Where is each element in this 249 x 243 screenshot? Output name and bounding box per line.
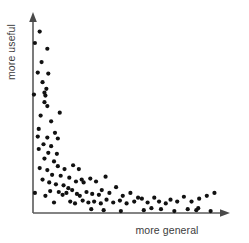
data-point	[41, 142, 45, 146]
data-point	[70, 188, 74, 192]
data-point	[86, 200, 90, 204]
data-point	[45, 168, 49, 172]
data-point	[104, 198, 108, 202]
data-point	[118, 198, 122, 202]
data-point	[97, 193, 101, 197]
data-point	[157, 199, 161, 203]
data-point	[100, 188, 104, 192]
data-point	[114, 185, 118, 189]
data-point	[67, 176, 71, 180]
data-point	[205, 194, 209, 198]
data-point	[46, 71, 50, 75]
data-point	[92, 199, 96, 203]
data-point	[50, 173, 54, 177]
data-point	[57, 190, 61, 194]
data-point	[142, 208, 146, 212]
data-point	[152, 196, 156, 200]
data-point	[89, 207, 93, 211]
data-point	[159, 207, 163, 211]
data-point	[36, 71, 40, 75]
data-point	[36, 135, 40, 139]
data-point	[212, 191, 216, 195]
data-point	[73, 201, 77, 205]
data-point	[172, 209, 176, 213]
data-point	[78, 194, 82, 198]
data-point	[88, 177, 92, 181]
data-point	[61, 183, 65, 187]
data-point	[90, 192, 94, 196]
data-point	[52, 200, 56, 204]
data-point	[99, 201, 103, 205]
data-point	[64, 191, 68, 195]
data-point	[32, 92, 36, 96]
scatter-plot-figure: more general more useful	[0, 0, 249, 243]
data-point	[168, 198, 172, 202]
data-point	[71, 163, 75, 167]
data-point	[37, 127, 41, 131]
data-point	[149, 206, 153, 210]
data-point	[52, 159, 56, 163]
data-point	[94, 179, 98, 183]
data-point	[132, 199, 136, 203]
data-point	[43, 194, 47, 198]
data-point	[37, 147, 41, 151]
x-axis-arrowhead	[220, 209, 230, 217]
data-point	[53, 131, 57, 135]
data-point	[54, 182, 58, 186]
x-axis-label: more general	[135, 224, 198, 236]
data-point	[197, 197, 201, 201]
data-point	[82, 180, 86, 184]
data-point	[119, 209, 123, 213]
data-point	[46, 151, 50, 155]
data-point	[175, 199, 179, 203]
data-point	[44, 87, 48, 91]
data-point	[39, 60, 43, 64]
data-point	[49, 119, 53, 123]
data-point	[128, 191, 132, 195]
scatter-plot-canvas: more general more useful	[0, 0, 249, 243]
data-point	[43, 93, 47, 97]
data-point	[49, 144, 53, 148]
data-point	[136, 196, 140, 200]
data-point	[58, 111, 62, 115]
data-point	[45, 47, 49, 51]
data-point	[146, 200, 150, 204]
data-point	[182, 195, 186, 199]
data-point	[48, 189, 52, 193]
data-point	[121, 194, 125, 198]
data-point	[103, 175, 107, 179]
data-point	[124, 201, 128, 205]
data-point	[77, 167, 81, 171]
data-point	[140, 197, 144, 201]
data-point	[61, 193, 65, 197]
data-point	[74, 179, 78, 183]
data-point	[38, 166, 42, 170]
data-point	[55, 152, 59, 156]
data-points-layer	[32, 29, 217, 213]
data-point	[164, 201, 168, 205]
data-point	[84, 190, 88, 194]
data-point	[81, 198, 85, 202]
data-point	[111, 200, 115, 204]
data-point	[40, 80, 44, 84]
y-axis-label: more useful	[5, 24, 17, 80]
data-point	[56, 164, 60, 168]
data-point	[196, 206, 200, 210]
data-point	[47, 180, 51, 184]
x-axis-group	[33, 209, 230, 217]
data-point	[62, 167, 66, 171]
y-axis-arrowhead	[29, 12, 37, 22]
data-point	[40, 177, 44, 181]
data-point	[42, 156, 46, 160]
data-point	[38, 29, 42, 33]
data-point	[42, 100, 46, 104]
data-point	[66, 186, 70, 190]
data-point	[102, 208, 106, 212]
data-point	[39, 113, 43, 117]
data-point	[33, 191, 37, 195]
data-point	[68, 199, 72, 203]
data-point	[56, 136, 60, 140]
data-point	[33, 41, 37, 45]
data-point	[45, 135, 49, 139]
data-point	[45, 104, 49, 108]
